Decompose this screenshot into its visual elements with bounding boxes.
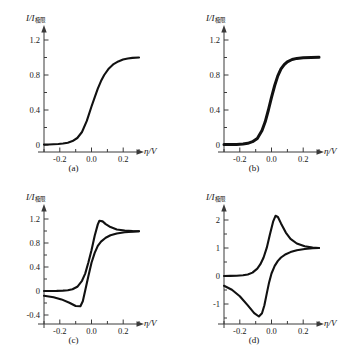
panel-a-ytick-2: 0.8 — [29, 70, 40, 80]
panel-c-curve-reverse — [44, 231, 139, 306]
panel-b-ytick-2: 0.8 — [209, 70, 220, 80]
panel-c-xtick-0: -0.2 — [53, 326, 66, 336]
panel-b-xtick-2: 0.2 — [298, 154, 309, 164]
panel-d-plot: -1 0 1 2 -0.2 0.0 0.2 — [179, 178, 359, 356]
panel-a-xtick-0: -0.2 — [53, 154, 66, 164]
panel-a-plot: 0 0.4 0.8 1.2 -0.2 0.0 0.2 — [0, 0, 179, 178]
panel-b-ytick-1: 0.4 — [209, 105, 220, 115]
panel-c-ytick-4: 1.2 — [29, 214, 40, 224]
panel-d-ytick-1: 0 — [216, 271, 220, 281]
panel-c-plot: -0.4 0 0.4 0.8 1.2 -0.2 0.0 0.2 — [0, 178, 179, 356]
panel-c-ytick-1: 0 — [36, 286, 40, 296]
panel-d-ytick-0: -1 — [213, 299, 220, 309]
panel-b-curve — [224, 57, 319, 144]
panel-c-ytick-3: 0.8 — [29, 238, 40, 248]
panel-c-ytick-0: -0.4 — [27, 310, 41, 320]
panel-d-curve-forward — [224, 216, 319, 276]
panel-d-ytick-2: 1 — [216, 243, 220, 253]
panel-a-xtick-2: 0.2 — [118, 154, 129, 164]
panel-b-xtick-0: -0.2 — [233, 154, 246, 164]
panel-d-xtick-0: -0.2 — [233, 326, 246, 336]
panel-d-ytick-3: 2 — [216, 215, 220, 225]
panel-d-xtick-2: 0.2 — [298, 326, 309, 336]
panel-c: I/I极限 η/V (c) -0.4 — [0, 178, 179, 356]
figure-grid: I/I极限 η/V (a) 0 0.4 — [0, 0, 359, 356]
panel-a-ytick-1: 0.4 — [29, 105, 40, 115]
panel-a-curve — [44, 58, 139, 145]
panel-a-ytick-3: 1.2 — [29, 35, 40, 45]
panel-b-ytick-3: 1.2 — [209, 35, 220, 45]
panel-b-ytick-0: 0 — [216, 140, 220, 150]
panel-c-xtick-1: 0.0 — [86, 326, 97, 336]
panel-a-ytick-0: 0 — [36, 140, 40, 150]
panel-c-xtick-2: 0.2 — [118, 326, 129, 336]
panel-d-curve-reverse — [224, 248, 319, 317]
panel-a-xtick-1: 0.0 — [86, 154, 97, 164]
panel-b: I/I极限 η/V (b) 0 0.4 0.8 1.2 — [179, 0, 359, 178]
panel-b-plot: 0 0.4 0.8 1.2 -0.2 0.0 0.2 — [179, 0, 359, 178]
panel-d-xtick-1: 0.0 — [266, 326, 277, 336]
panel-b-xtick-1: 0.0 — [266, 154, 277, 164]
panel-c-ytick-2: 0.4 — [29, 262, 40, 272]
panel-a: I/I极限 η/V (a) 0 0.4 — [0, 0, 179, 178]
panel-d: I/I极限 η/V (d) -1 0 — [179, 178, 359, 356]
